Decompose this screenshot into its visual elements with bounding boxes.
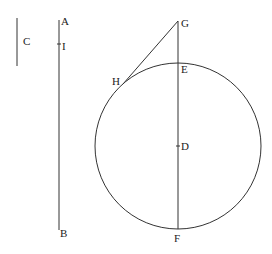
tangent-gh	[123, 21, 178, 84]
label-h: H	[112, 75, 120, 87]
geometry-diagram: C A I B G H E D F	[0, 0, 272, 254]
label-f: F	[174, 232, 180, 244]
label-e: E	[181, 63, 188, 75]
label-a: A	[61, 15, 69, 27]
label-d: D	[181, 140, 189, 152]
label-g: G	[181, 17, 189, 29]
label-b: B	[60, 227, 67, 239]
label-c: C	[23, 35, 30, 47]
label-i: I	[62, 40, 66, 52]
